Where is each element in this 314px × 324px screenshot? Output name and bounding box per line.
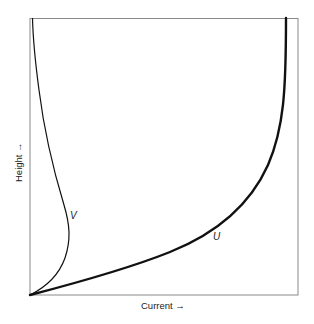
diagram-figure: V U Current → Height →	[0, 0, 314, 324]
y-axis-label: Height →	[13, 142, 24, 182]
curve-u-label: U	[213, 231, 221, 242]
curve-u	[30, 18, 286, 295]
x-axis-label: Current →	[141, 300, 185, 311]
curve-v-label: V	[70, 210, 78, 221]
curve-v	[30, 18, 69, 295]
